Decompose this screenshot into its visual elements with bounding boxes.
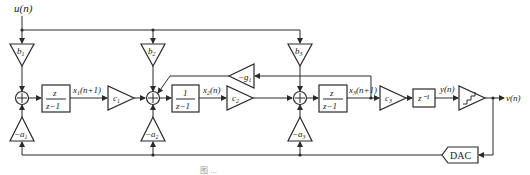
- summer-2: [147, 92, 160, 105]
- svg-text:z⁻¹: z⁻¹: [417, 93, 430, 103]
- quantizer: [459, 86, 485, 110]
- gain-b3: b3: [288, 44, 312, 66]
- svg-text:1: 1: [183, 88, 188, 98]
- svg-text:z−1: z−1: [175, 101, 190, 111]
- integrator-3: z z−1: [319, 85, 347, 112]
- output-label: v(n): [506, 93, 521, 103]
- svg-text:z: z: [52, 88, 57, 98]
- svg-text:z−1: z−1: [45, 101, 60, 111]
- block-diagram: u(n) b1 b2 b3 z z−1 x1(n+1): [0, 0, 530, 175]
- gain-a3: −a3: [288, 117, 312, 141]
- summer-3: [294, 92, 307, 105]
- integrator-1: z z−1: [42, 85, 70, 112]
- figure-caption: 图 ...: [200, 166, 217, 175]
- gain-c3: c3: [380, 86, 406, 110]
- gain-a2: −a2: [141, 117, 165, 141]
- svg-text:z−1: z−1: [322, 101, 337, 111]
- svg-text:z: z: [329, 88, 334, 98]
- quantizer-input-label: y(n): [439, 84, 455, 94]
- delay-block: z⁻¹: [413, 89, 435, 107]
- state-x1: x1(n+1): [72, 85, 101, 96]
- state-x3: x3(n+1): [348, 85, 377, 96]
- gain-g1: −g1: [229, 64, 254, 88]
- gain-a1: −a1: [10, 117, 34, 141]
- gain-b1: b1: [10, 44, 34, 66]
- gain-c1: c1: [108, 86, 134, 110]
- gain-c2: c2: [227, 86, 253, 110]
- dac-block: DAC: [442, 147, 478, 163]
- summer-1: [16, 92, 29, 105]
- integrator-2: 1 z−1: [172, 85, 199, 112]
- svg-text:DAC: DAC: [450, 150, 471, 161]
- state-x2: x2(n): [202, 85, 221, 96]
- input-label: u(n): [14, 2, 33, 15]
- gain-b2: b2: [141, 44, 165, 66]
